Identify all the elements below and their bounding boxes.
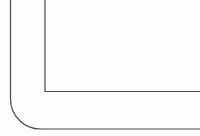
drawing-canvas [0, 0, 200, 136]
drawing-background [0, 0, 200, 136]
line-drawing-figure [0, 0, 200, 136]
